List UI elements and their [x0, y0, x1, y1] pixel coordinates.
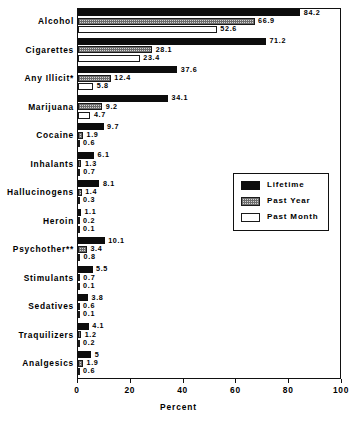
bar-pastmonth [78, 26, 217, 33]
category-label: Cigarettes [0, 45, 74, 55]
bar-value-label: 66.9 [258, 17, 275, 25]
category-row: Traquilizers4.11.20.2 [0, 322, 357, 351]
bar-value-label: 10.1 [108, 237, 125, 245]
legend-item-lifetime: Lifetime [241, 180, 327, 193]
bar-value-label: 0.6 [83, 139, 95, 147]
legend-item-past-year: Past Year [241, 196, 327, 209]
category-bar-group: 10.13.40.8 [78, 236, 342, 265]
category-row: Alcohol84.266.952.6 [0, 8, 357, 37]
bar-value-label: 52.6 [220, 25, 237, 33]
x-axis-tick [183, 379, 184, 383]
bar-pastmonth [78, 254, 80, 261]
category-label: Analgesics [0, 358, 74, 368]
bar-lifetime [78, 95, 168, 102]
x-axis-tick [77, 379, 78, 383]
category-row: Stimulants5.50.70.1 [0, 265, 357, 294]
category-bar-group: 71.228.123.4 [78, 37, 342, 66]
category-bar-group: 37.612.45.8 [78, 65, 342, 94]
bar-pastmonth [78, 368, 80, 375]
category-row: Marijuana34.19.24.7 [0, 94, 357, 123]
bar-pastyear [78, 189, 82, 196]
category-bar-group: 84.266.952.6 [78, 8, 342, 37]
category-label: Sedatives [0, 301, 74, 311]
bar-value-label: 0.1 [83, 310, 95, 318]
category-row: Analgesics51.90.6 [0, 350, 357, 379]
bar-value-label: 9.2 [106, 103, 118, 111]
x-axis-tick [130, 379, 131, 383]
bar-lifetime [78, 209, 81, 216]
category-bar-group: 3.80.60.1 [78, 293, 342, 322]
category-label: Alcohol [0, 16, 74, 26]
category-label: Hallucinogens [0, 187, 74, 197]
x-axis-tick-label: 20 [124, 385, 135, 395]
category-bar-group: 4.11.20.2 [78, 322, 342, 351]
category-row: Any Illicit*37.612.45.8 [0, 65, 357, 94]
bar-pastmonth [78, 140, 80, 147]
bar-lifetime [78, 323, 89, 330]
category-row: Psychother**10.13.40.8 [0, 236, 357, 265]
category-bar-group: 5.50.70.1 [78, 265, 342, 294]
category-label: Any Illicit* [0, 73, 74, 83]
x-axis-tick-label: 100 [333, 385, 349, 395]
bar-pastmonth [78, 169, 80, 176]
category-row: Cigarettes71.228.123.4 [0, 37, 357, 66]
x-axis-tick [235, 379, 236, 383]
bar-value-label: 0.3 [83, 196, 95, 204]
bar-value-label: 9.7 [107, 123, 119, 131]
legend-label-past-month: Past Month [267, 212, 319, 221]
bar-value-label: 8.1 [103, 180, 115, 188]
bar-pastmonth [78, 112, 90, 119]
bar-pastyear [78, 46, 152, 53]
bar-lifetime [78, 266, 93, 273]
legend-label-lifetime: Lifetime [267, 180, 304, 189]
bar-pastmonth [78, 340, 80, 347]
bar-value-label: 71.2 [269, 37, 286, 45]
bar-pastmonth [78, 311, 80, 318]
category-row: Cocaine9.71.90.6 [0, 122, 357, 151]
bar-value-label: 84.2 [304, 9, 321, 17]
legend-swatch-past-year-icon [241, 197, 260, 206]
legend-item-past-month: Past Month [241, 212, 327, 225]
x-axis-tick-label: 80 [283, 385, 294, 395]
bar-lifetime [78, 38, 266, 45]
legend-swatch-past-month-icon [241, 213, 260, 222]
x-axis-title: Percent [0, 402, 357, 412]
bar-pastmonth [78, 283, 80, 290]
bar-value-label: 37.6 [181, 66, 198, 74]
category-label: Heroin [0, 216, 74, 226]
x-axis-tick-label: 60 [230, 385, 241, 395]
bar-value-label: 5.8 [97, 82, 109, 90]
category-label: Cocaine [0, 130, 74, 140]
bar-pastyear [78, 303, 80, 310]
category-row: Sedatives3.80.60.1 [0, 293, 357, 322]
bar-pastmonth [78, 197, 80, 204]
legend-swatch-lifetime-icon [241, 181, 260, 190]
x-axis-tick-label: 40 [177, 385, 188, 395]
bar-pastyear [78, 160, 81, 167]
bar-value-label: 0.8 [84, 253, 96, 261]
bar-value-label: 0.7 [83, 168, 95, 176]
legend-label-past-year: Past Year [267, 196, 311, 205]
bar-pastyear [78, 331, 81, 338]
category-label: Psychother** [0, 244, 74, 254]
bar-pastmonth [78, 83, 93, 90]
chart-legend: Lifetime Past Year Past Month [233, 173, 329, 231]
bar-value-label: 4.7 [94, 111, 106, 119]
category-label: Stimulants [0, 273, 74, 283]
bar-pastyear [78, 274, 80, 281]
bar-chart: Alcohol84.266.952.6Cigarettes71.228.123.… [0, 0, 357, 421]
bar-value-label: 34.1 [172, 94, 189, 102]
bar-pastmonth [78, 226, 80, 233]
x-axis-tick [288, 379, 289, 383]
category-label: Marijuana [0, 102, 74, 112]
bar-value-label: 23.4 [143, 54, 160, 62]
category-bar-group: 9.71.90.6 [78, 122, 342, 151]
bar-lifetime [78, 152, 94, 159]
category-label: Inhalants [0, 159, 74, 169]
bar-value-label: 0.2 [83, 339, 95, 347]
category-bar-group: 51.90.6 [78, 350, 342, 379]
category-label: Traquilizers [0, 330, 74, 340]
bar-value-label: 12.4 [114, 74, 131, 82]
bar-value-label: 0.1 [83, 225, 95, 233]
x-axis-tick-label: 0 [74, 385, 79, 395]
